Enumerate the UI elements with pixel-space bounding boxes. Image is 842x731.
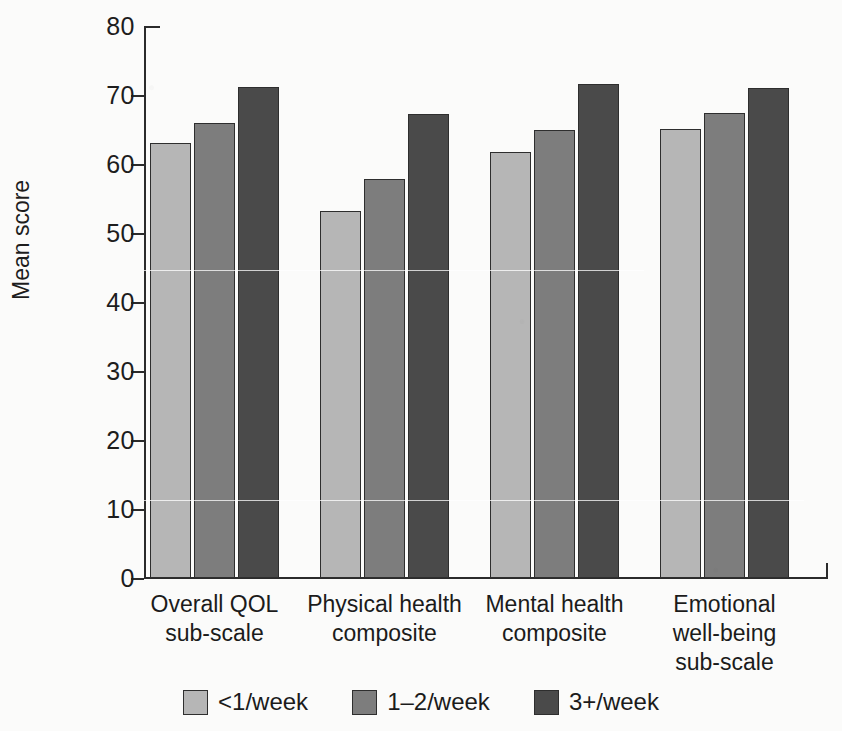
bar [534, 130, 575, 579]
y-axis-title: Mean score [8, 180, 35, 300]
legend-label: <1/week [218, 688, 308, 716]
y-axis-tick-label: 20 [106, 426, 135, 455]
chart-legend: <1/week1–2/week3+/week [0, 688, 842, 716]
bar [364, 179, 405, 579]
bar [490, 152, 531, 578]
bar [748, 88, 789, 578]
legend-label: 3+/week [569, 688, 659, 716]
legend-item: <1/week [183, 688, 308, 716]
bar [238, 87, 279, 578]
bar [150, 143, 191, 578]
figure-canvas: Mean score 80706050403020100 Overall QOL… [0, 0, 842, 731]
y-axis-tick-label: 70 [106, 81, 135, 110]
legend-item: 1–2/week [352, 688, 490, 716]
y-axis-tick-label: 0 [121, 564, 135, 593]
legend-label: 1–2/week [387, 688, 490, 716]
y-axis-tick-label: 30 [106, 357, 135, 386]
bar [660, 129, 701, 578]
legend-swatch [183, 690, 208, 715]
bar [704, 113, 745, 578]
legend-item: 3+/week [534, 688, 659, 716]
cropped-title-sliver [120, 0, 680, 5]
y-axis-tick-label: 80 [106, 12, 135, 41]
x-axis-category-label: Emotional well-being sub-scale [625, 590, 825, 677]
y-axis-tick-label: 10 [106, 495, 135, 524]
legend-swatch [534, 690, 559, 715]
y-axis-tick-label: 60 [106, 150, 135, 179]
plot-area: 80706050403020100 [144, 26, 828, 578]
bar [194, 123, 235, 578]
bar [320, 211, 361, 578]
bar [408, 114, 449, 578]
legend-swatch [352, 690, 377, 715]
y-axis-tick-label: 40 [106, 288, 135, 317]
y-axis-tick-label: 50 [106, 219, 135, 248]
bar [578, 84, 619, 578]
